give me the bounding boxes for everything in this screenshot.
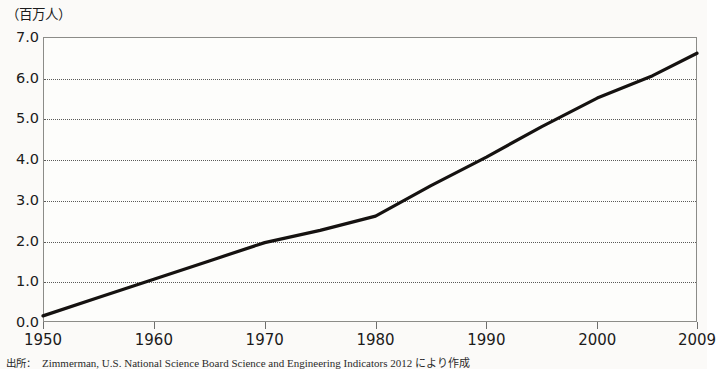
x-axis-tick-label: 2009 (678, 331, 716, 349)
x-axis-tick-label: 2000 (578, 331, 616, 349)
x-axis-tick-mark (597, 322, 598, 329)
y-axis-tick-label: 2.0 (16, 233, 39, 249)
x-axis-tick-label: 1970 (246, 331, 284, 349)
source-prefix: 出所： (6, 357, 36, 369)
x-axis-tick-label: 1960 (135, 331, 173, 349)
data-series-line (43, 37, 697, 322)
x-axis-tick-label: 1990 (467, 331, 505, 349)
source-caption: 出所：Zimmerman, U.S. National Science Boar… (6, 357, 706, 369)
y-axis-tick-label: 4.0 (16, 151, 39, 167)
x-axis-tick-mark (265, 322, 266, 329)
x-axis-tick-mark (697, 322, 698, 329)
source-text: Zimmerman, U.S. National Science Board S… (42, 357, 470, 369)
x-axis-tick-label: 1950 (24, 331, 62, 349)
x-axis-tick-mark (376, 322, 377, 329)
x-axis-tick-label: 1980 (356, 331, 394, 349)
y-axis-tick-labels: 7.06.05.04.03.02.01.00.0 (0, 0, 43, 369)
y-axis-tick-label: 3.0 (16, 192, 39, 208)
y-axis-tick-label: 6.0 (16, 70, 39, 86)
series-polyline (43, 53, 697, 316)
y-axis-tick-label: 7.0 (16, 29, 39, 45)
x-axis-tick-mark (43, 322, 44, 329)
y-axis-tick-label: 1.0 (16, 273, 39, 289)
x-axis: 1950196019701980199020002009 (0, 322, 707, 362)
y-axis-tick-label: 5.0 (16, 110, 39, 126)
x-axis-tick-mark (154, 322, 155, 329)
x-axis-tick-mark (486, 322, 487, 329)
